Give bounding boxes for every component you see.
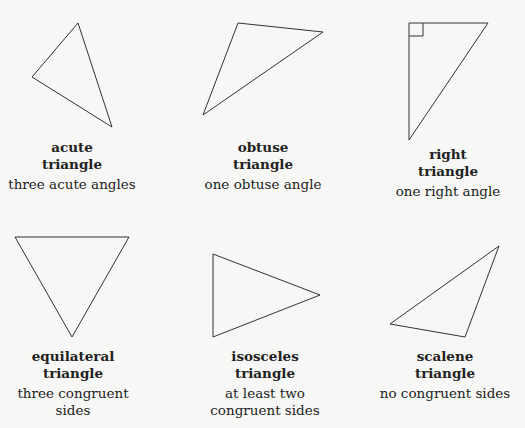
right-triangle-label: right triangle one right angle xyxy=(368,146,525,200)
isosceles-name-2: triangle xyxy=(185,365,345,382)
obtuse-desc: one obtuse angle xyxy=(183,176,343,193)
equilateral-desc-1: three congruent xyxy=(0,385,153,402)
obtuse-name-2: triangle xyxy=(183,156,343,173)
scalene-name-1: scalene xyxy=(365,348,525,365)
acute-triangle-label: acute triangle three acute angles xyxy=(0,139,152,193)
right-name-2: triangle xyxy=(368,163,525,180)
right-angle-marker xyxy=(409,23,423,36)
scalene-triangle-label: scalene triangle no congruent sides xyxy=(365,348,525,402)
scalene-desc: no congruent sides xyxy=(365,385,525,402)
right-triangle-shape xyxy=(409,23,488,140)
equilateral-triangle-label: equilateral triangle three congruent sid… xyxy=(0,348,153,419)
obtuse-triangle-shape xyxy=(203,23,323,115)
scalene-triangle-shape xyxy=(390,246,499,337)
acute-name-1: acute xyxy=(0,139,152,156)
isosceles-triangle-label: isosceles triangle at least two congruen… xyxy=(185,348,345,419)
equilateral-name-2: triangle xyxy=(0,365,153,382)
isosceles-desc-2: congruent sides xyxy=(185,402,345,419)
obtuse-triangle-label: obtuse triangle one obtuse angle xyxy=(183,139,343,193)
equilateral-desc-2: sides xyxy=(0,402,153,419)
acute-desc: three acute angles xyxy=(0,176,152,193)
isosceles-desc-1: at least two xyxy=(185,385,345,402)
acute-name-2: triangle xyxy=(0,156,152,173)
isosceles-name-1: isosceles xyxy=(185,348,345,365)
equilateral-name-1: equilateral xyxy=(0,348,153,365)
scalene-name-2: triangle xyxy=(365,365,525,382)
isosceles-triangle-shape xyxy=(213,254,320,337)
obtuse-name-1: obtuse xyxy=(183,139,343,156)
right-desc: one right angle xyxy=(368,183,525,200)
right-name-1: right xyxy=(368,146,525,163)
equilateral-triangle-shape xyxy=(15,237,129,337)
acute-triangle-shape xyxy=(32,23,112,127)
